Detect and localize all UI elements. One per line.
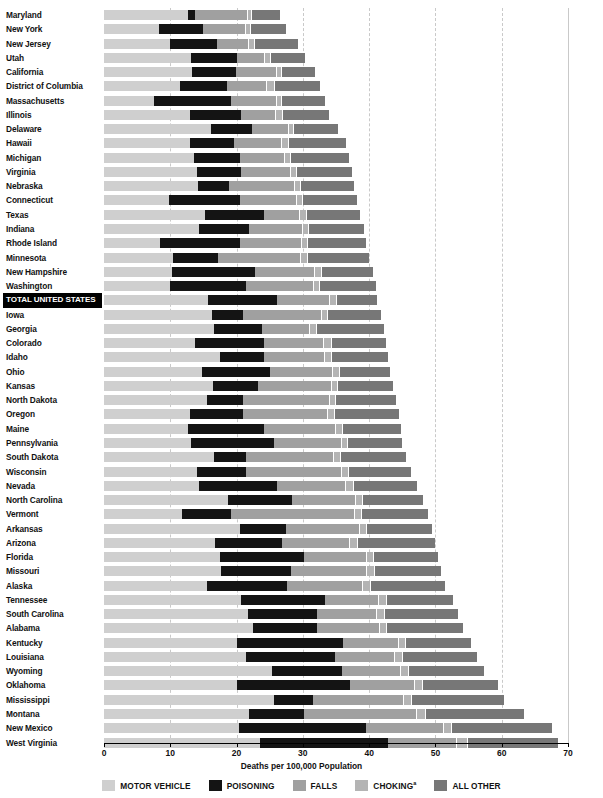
bar-segment-mv	[104, 638, 237, 648]
bar-segment-mv	[104, 495, 228, 505]
bar-segment-mv	[104, 138, 190, 148]
chart-row: District of Columbia	[0, 79, 603, 93]
bar-segment-po	[248, 609, 317, 619]
bar-segment-fa	[231, 509, 354, 519]
legend-swatch-icon-ch	[355, 780, 368, 791]
chart-row: New Hampshire	[0, 265, 603, 279]
bar-segment-ch	[378, 595, 385, 605]
legend-item-fa[interactable]: FALLS	[293, 780, 338, 791]
bar-segment-fa	[240, 195, 296, 205]
stacked-bar	[104, 324, 384, 334]
row-label: Maryland	[6, 8, 102, 22]
chart-row: Ohio	[0, 365, 603, 379]
stacked-bar	[104, 495, 423, 505]
tick-label-60: 60	[497, 748, 506, 758]
stacked-bar	[104, 409, 399, 419]
bar-segment-fa	[227, 81, 267, 91]
row-label: Georgia	[6, 322, 102, 336]
tick-label-40: 40	[364, 748, 373, 758]
legend-swatch-icon-mv	[102, 780, 115, 791]
row-label: Minnesota	[6, 251, 102, 265]
legend-item-mv[interactable]: MOTOR VEHICLE	[102, 780, 190, 791]
bar-segment-mv	[104, 509, 182, 519]
row-label: New Hampshire	[6, 265, 102, 279]
row-label: District of Columbia	[6, 79, 102, 93]
bar-segment-ao	[327, 310, 381, 320]
stacked-bar	[104, 566, 441, 576]
stacked-bar	[104, 595, 453, 605]
chart-row: South Dakota	[0, 450, 603, 464]
legend-swatch-icon-po	[209, 780, 222, 791]
bar-segment-fa	[262, 324, 309, 334]
legend-item-ch[interactable]: CHOKINGa	[355, 780, 416, 791]
bar-segment-ao	[357, 538, 436, 548]
legend-swatch-icon-ao	[434, 780, 447, 791]
stacked-bar	[104, 281, 376, 291]
bar-segment-fa	[243, 395, 329, 405]
bar-segment-po	[182, 509, 231, 519]
tick-label-50: 50	[431, 748, 440, 758]
bar-segment-fa	[270, 367, 332, 377]
bar-segment-ch	[355, 495, 362, 505]
bar-segment-fa	[342, 666, 400, 676]
row-label: Michigan	[6, 151, 102, 165]
bar-segment-ao	[335, 395, 395, 405]
bar-segment-mv	[104, 167, 197, 177]
bar-segment-mv	[104, 381, 213, 391]
chart-row: Pennsylvania	[0, 436, 603, 450]
bar-segment-po	[190, 138, 234, 148]
stacked-bar	[104, 723, 552, 733]
bar-segment-po	[202, 367, 270, 377]
bar-segment-po	[154, 96, 230, 106]
bar-segment-ao	[300, 181, 354, 191]
row-label: Iowa	[6, 308, 102, 322]
row-label: Arkansas	[6, 522, 102, 536]
row-label: Wisconsin	[6, 465, 102, 479]
bar-segment-mv	[104, 210, 205, 220]
legend-item-po[interactable]: POISONING	[209, 780, 275, 791]
bar-segment-fa	[246, 452, 333, 462]
chart-row: Hawaii	[0, 136, 603, 150]
stacked-bar	[104, 652, 477, 662]
chart-row: Texas	[0, 208, 603, 222]
bar-segment-ao	[251, 10, 280, 20]
bar-segment-fa	[325, 595, 378, 605]
stacked-bar	[104, 695, 504, 705]
stacked-bar	[104, 167, 352, 177]
stacked-bar	[104, 609, 458, 619]
legend-item-ao[interactable]: ALL OTHER	[434, 780, 500, 791]
bar-segment-fa	[350, 680, 414, 690]
chart-row: Maine	[0, 422, 603, 436]
chart-row: Washington	[0, 279, 603, 293]
stacked-bar	[104, 181, 354, 191]
row-label: South Carolina	[6, 607, 102, 621]
bar-segment-mv	[104, 409, 190, 419]
bar-segment-po	[188, 10, 195, 20]
bar-segment-mv	[104, 110, 190, 120]
bar-segment-po	[237, 638, 344, 648]
row-label: Oklahoma	[6, 678, 102, 692]
bar-segment-po	[249, 709, 304, 719]
chart-row: South Carolina	[0, 607, 603, 621]
bar-segment-mv	[104, 124, 211, 134]
bar-segment-mv	[104, 338, 195, 348]
chart-row: Idaho	[0, 350, 603, 364]
row-label: Kansas	[6, 379, 102, 393]
chart-row: Missouri	[0, 564, 603, 578]
bar-segment-mv	[104, 367, 202, 377]
row-label: South Dakota	[6, 450, 102, 464]
bar-segment-fa	[264, 352, 324, 362]
bar-segment-mv	[104, 623, 253, 633]
bar-segment-mv	[104, 267, 172, 277]
bar-segment-fa	[241, 110, 275, 120]
stacked-bar	[104, 524, 432, 534]
bar-segment-fa	[287, 581, 363, 591]
bar-segment-ch	[302, 224, 309, 234]
chart-row: Tennessee	[0, 593, 603, 607]
bar-segment-ch	[366, 552, 373, 562]
bar-segment-ao	[386, 595, 453, 605]
row-label: Texas	[6, 208, 102, 222]
row-label: New Jersey	[6, 37, 102, 51]
bar-segment-fa	[237, 53, 264, 63]
stacked-bar	[104, 424, 401, 434]
